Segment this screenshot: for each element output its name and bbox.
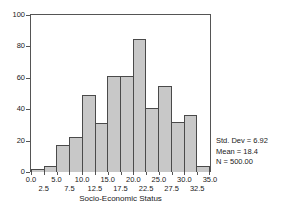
y-tick-label: 20 bbox=[17, 137, 25, 145]
x-tick-label: 10.0 bbox=[75, 175, 90, 184]
bar bbox=[171, 122, 185, 172]
x-tick-label: 15.0 bbox=[100, 175, 115, 184]
histogram-chart: 020406080100 0.05.010.015.020.025.030.03… bbox=[0, 0, 286, 215]
bar-series bbox=[31, 15, 210, 172]
bar bbox=[184, 115, 198, 172]
x-tick-label: 25.0 bbox=[152, 175, 167, 184]
y-axis: 020406080100 bbox=[0, 0, 30, 172]
y-tick-label: 40 bbox=[17, 105, 25, 113]
x-tick-label: 12.5 bbox=[88, 184, 103, 193]
bar bbox=[95, 123, 109, 172]
x-tick-label: 17.5 bbox=[113, 184, 128, 193]
bar bbox=[69, 137, 83, 172]
bar bbox=[158, 86, 172, 172]
x-tick-label: 30.0 bbox=[177, 175, 192, 184]
bar bbox=[56, 145, 70, 172]
x-tick-label: 2.5 bbox=[39, 184, 49, 193]
y-tick-label: 100 bbox=[12, 11, 25, 19]
x-axis-title: Socio-Economic Status bbox=[31, 194, 210, 204]
x-tick-label: 27.5 bbox=[164, 184, 179, 193]
bar bbox=[82, 95, 96, 172]
y-tick-label: 60 bbox=[17, 74, 25, 82]
stat-n: N = 500.00 bbox=[216, 157, 268, 168]
bar bbox=[133, 39, 147, 172]
bar bbox=[107, 76, 121, 172]
x-tick-label: 32.5 bbox=[190, 184, 205, 193]
x-tick-label: 7.5 bbox=[64, 184, 74, 193]
x-axis-labels: 0.05.010.015.020.025.030.035.02.57.512.5… bbox=[0, 175, 286, 195]
x-tick-label: 20.0 bbox=[126, 175, 141, 184]
stats-annotation: Std. Dev = 6.92 Mean = 18.4 N = 500.00 bbox=[216, 136, 268, 168]
stat-mean: Mean = 18.4 bbox=[216, 147, 268, 158]
bar bbox=[120, 76, 134, 172]
x-tick-label: 5.0 bbox=[51, 175, 61, 184]
y-tick-label: 80 bbox=[17, 42, 25, 50]
x-tick-label: 35.0 bbox=[203, 175, 218, 184]
stat-std-dev: Std. Dev = 6.92 bbox=[216, 136, 268, 147]
y-tick-mark bbox=[26, 172, 30, 173]
bar bbox=[145, 108, 159, 172]
x-tick-label: 0.0 bbox=[26, 175, 36, 184]
x-tick-label: 22.5 bbox=[139, 184, 154, 193]
